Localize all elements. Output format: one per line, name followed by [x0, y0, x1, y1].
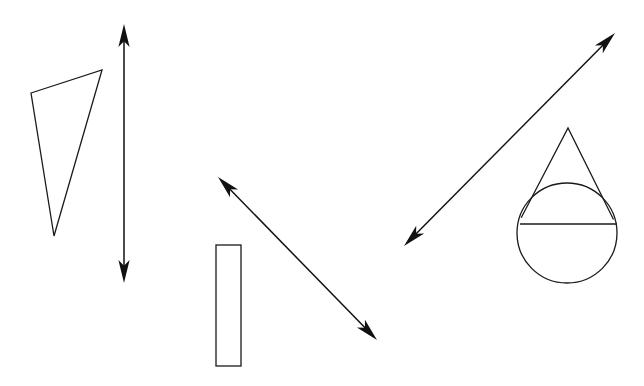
canvas-background [0, 0, 644, 386]
figure-canvas: Geometric shapes and double-headed arrow… [0, 0, 644, 386]
